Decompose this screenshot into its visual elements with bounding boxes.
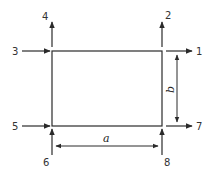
- dof-label-8: 8: [164, 157, 170, 168]
- dof-label-6: 6: [43, 157, 49, 168]
- dimension-a-label: a: [103, 132, 110, 145]
- dof-label-7: 7: [196, 121, 202, 132]
- dof-label-3: 3: [12, 46, 18, 57]
- dof-label-4: 4: [42, 11, 48, 22]
- dimension-b-label: b: [164, 86, 177, 93]
- plate-element-diagram: 3 4 1 2 5 6 7 8 a b: [0, 0, 214, 175]
- dof-label-1: 1: [196, 46, 202, 57]
- plate-rectangle: [52, 51, 162, 126]
- dof-label-2: 2: [165, 10, 171, 21]
- dof-label-5: 5: [12, 121, 18, 132]
